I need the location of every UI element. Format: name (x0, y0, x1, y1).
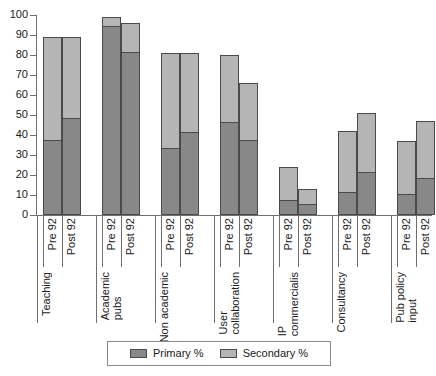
bar-segment-primary (122, 52, 139, 214)
bar (298, 189, 317, 215)
bar (239, 83, 258, 215)
x-axis-group-separator (37, 215, 38, 323)
x-axis-category-label: Pub policyinput (394, 272, 418, 323)
bar (161, 53, 180, 215)
y-axis-tick-label: 90 (2, 29, 28, 40)
x-axis-separator (102, 215, 103, 267)
bar-segment-secondary (181, 54, 198, 134)
bar-segment-primary (44, 140, 61, 214)
x-axis-separator (220, 215, 221, 267)
y-axis-tick-label-wrap: 50 (0, 109, 28, 120)
y-axis-tick-label-wrap: 70 (0, 69, 28, 80)
x-axis-group-separator (155, 215, 156, 323)
y-axis-tick-label: 60 (2, 89, 28, 100)
x-axis-series-label: Pre 92 (223, 218, 235, 250)
x-axis-series-label: Pre 92 (46, 218, 58, 250)
bar-segment-primary (181, 132, 198, 214)
x-axis-series-label: Pre 92 (282, 218, 294, 250)
plot-area (37, 15, 432, 215)
x-axis-category-label: Academicpubs (99, 272, 123, 320)
bar-segment-secondary (417, 122, 434, 180)
bar (338, 131, 357, 215)
legend-label-secondary: Secondary % (243, 348, 308, 359)
x-axis-series-label: Post 92 (124, 218, 136, 255)
y-axis-tick-label: 70 (2, 69, 28, 80)
bar (397, 141, 416, 215)
bar-segment-primary (162, 148, 179, 214)
x-axis-series-label: Post 92 (183, 218, 195, 255)
x-axis-separator (121, 215, 122, 267)
y-axis-tick-label: 30 (2, 149, 28, 160)
bar-segment-primary (358, 172, 375, 214)
y-axis-tick-label: 20 (2, 169, 28, 180)
x-axis-separator (161, 215, 162, 267)
bar-segment-secondary (398, 142, 415, 196)
bar (357, 113, 376, 215)
y-axis-tick-label: 40 (2, 129, 28, 140)
bar-segment-primary (339, 192, 356, 214)
bar-segment-secondary (339, 132, 356, 194)
x-axis-separator (239, 215, 240, 267)
bar-segment-secondary (221, 56, 238, 124)
bar (43, 37, 62, 215)
x-axis-series-label: Post 92 (65, 218, 77, 255)
x-axis-separator (338, 215, 339, 267)
bar (121, 23, 140, 215)
y-axis-tick-label-wrap: 40 (0, 129, 28, 140)
x-axis-separator (43, 215, 44, 267)
bar (102, 17, 121, 215)
bar-segment-secondary (240, 84, 257, 142)
bar-chart: 0102030405060708090100 Pre 92Post 92Pre … (0, 0, 436, 376)
bar (180, 53, 199, 215)
bar-segment-secondary (280, 168, 297, 202)
bar-segment-secondary (44, 38, 61, 142)
bar (416, 121, 435, 215)
x-axis-category-label: IPcommercialis (276, 272, 300, 336)
bar-segment-primary (299, 204, 316, 214)
y-axis-tick-label-wrap: 20 (0, 169, 28, 180)
bar-segment-primary (417, 178, 434, 214)
bar (279, 167, 298, 215)
x-axis-category-label: Consultancy (335, 272, 347, 333)
y-axis-tick-label-wrap: 0 (0, 209, 28, 220)
y-axis-tick-label: 80 (2, 49, 28, 60)
x-axis-series-label: Post 92 (242, 218, 254, 255)
bar-segment-primary (398, 194, 415, 214)
legend-swatch-secondary (220, 349, 237, 358)
y-axis-tick-label-wrap: 100 (0, 9, 28, 20)
x-axis-group-separator (96, 215, 97, 323)
y-axis-tick-label: 10 (2, 189, 28, 200)
x-axis-series-label: Post 92 (360, 218, 372, 255)
x-axis-group-separator (332, 215, 333, 323)
bar-segment-primary (280, 200, 297, 214)
x-axis-group-separator (273, 215, 274, 323)
x-axis-series-label: Pre 92 (164, 218, 176, 250)
legend-item-primary: Primary % (130, 348, 204, 359)
x-axis-group-separator (391, 215, 392, 323)
bar-segment-secondary (162, 54, 179, 150)
x-axis-category-label: Non academic (158, 272, 170, 342)
x-axis-category-label: Teaching (40, 272, 52, 316)
x-axis-separator (397, 215, 398, 267)
x-axis-series-label: Pre 92 (105, 218, 117, 250)
bar-segment-primary (63, 118, 80, 214)
bar-segment-primary (103, 26, 120, 214)
y-axis-tick-label: 0 (2, 209, 28, 220)
x-axis-series-label: Pre 92 (341, 218, 353, 250)
x-axis-series-label: Post 92 (301, 218, 313, 255)
x-axis-separator (298, 215, 299, 267)
y-axis-tick-label-wrap: 60 (0, 89, 28, 100)
y-axis-tick-label-wrap: 30 (0, 149, 28, 160)
y-axis-tick-label-wrap: 80 (0, 49, 28, 60)
x-axis-series-label: Post 92 (419, 218, 431, 255)
x-axis-group-separator (214, 215, 215, 323)
x-axis-separator (180, 215, 181, 267)
x-axis-separator (62, 215, 63, 267)
x-axis-series-label: Pre 92 (400, 218, 412, 250)
x-axis-separator (357, 215, 358, 267)
x-axis-category-label: Usercollaboration (217, 272, 241, 334)
y-axis-tick-label-wrap: 10 (0, 189, 28, 200)
legend-item-secondary: Secondary % (220, 348, 308, 359)
bar-segment-secondary (63, 38, 80, 120)
legend: Primary % Secondary % (107, 341, 331, 366)
